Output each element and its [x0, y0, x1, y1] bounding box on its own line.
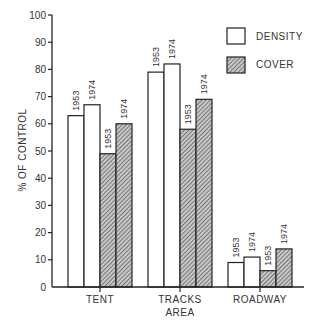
bar-year-label: 1974	[199, 74, 209, 94]
category-label: TRACKS	[158, 294, 202, 305]
bar-cover-1953	[100, 154, 116, 287]
bar-group-tent: 1953197419531974TENT	[68, 80, 132, 305]
legend-label-density: DENSITY	[256, 31, 303, 42]
bar-year-label: 1953	[183, 104, 193, 124]
bar-year-label: 1974	[247, 232, 257, 252]
legend-swatch-cover	[227, 57, 245, 73]
bar-group-roadway: 1953197419531974ROADWAY	[228, 224, 292, 305]
y-tick-label: 10	[35, 254, 47, 265]
legend-label-cover: COVER	[256, 59, 294, 70]
bar-density-1974	[84, 105, 100, 287]
y-tick-label: 100	[29, 10, 46, 21]
y-tick-label: 40	[35, 173, 47, 184]
bar-year-label: 1953	[103, 129, 113, 149]
bar-cover-1953	[180, 129, 196, 287]
bar-year-label: 1974	[87, 80, 97, 100]
bar-year-label: 1953	[71, 91, 81, 111]
bar-year-label: 1974	[167, 39, 177, 59]
y-tick-label: 0	[40, 282, 46, 293]
category-label: TENT	[86, 294, 114, 305]
y-axis: 0102030405060708090100	[29, 10, 52, 293]
y-tick-label: 70	[35, 91, 47, 102]
bar-year-label: 1953	[231, 237, 241, 257]
y-tick-label: 60	[35, 118, 47, 129]
bar-density-1953	[148, 72, 164, 287]
bar-cover-1974	[276, 249, 292, 287]
y-tick-label: 30	[35, 200, 47, 211]
legend-swatch-density	[227, 28, 245, 44]
bar-density-1953	[68, 116, 84, 287]
bar-density-1953	[228, 263, 244, 287]
y-axis-title: % OF CONTROL	[17, 108, 28, 191]
y-tick-label: 20	[35, 227, 47, 238]
bar-cover-1953	[260, 271, 276, 287]
bar-density-1974	[164, 64, 180, 287]
bar-group-tracks: 1953197419531974TRACKS	[148, 39, 212, 305]
category-label: ROADWAY	[233, 294, 287, 305]
bars: 1953197419531974TENT1953197419531974TRAC…	[68, 39, 292, 305]
bar-cover-1974	[196, 99, 212, 287]
bar-year-label: 1953	[263, 246, 273, 266]
y-tick-label: 80	[35, 64, 47, 75]
legend: DENSITYCOVER	[227, 28, 303, 73]
bar-year-label: 1974	[279, 224, 289, 244]
x-axis-title: AREA	[165, 307, 194, 318]
bar-year-label: 1953	[151, 47, 161, 67]
y-tick-label: 90	[35, 37, 47, 48]
bar-cover-1974	[116, 124, 132, 287]
y-tick-label: 50	[35, 146, 47, 157]
bar-chart: 0102030405060708090100 1953197419531974T…	[0, 0, 319, 333]
bar-density-1974	[244, 257, 260, 287]
bar-year-label: 1974	[119, 99, 129, 119]
